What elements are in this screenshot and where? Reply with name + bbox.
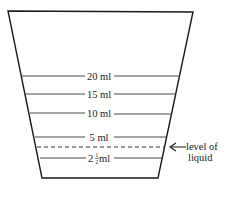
- graduation-10ml: 10 ml: [30, 108, 172, 119]
- graduation-label: 5 ml: [90, 132, 109, 143]
- graduation-20ml: 20 ml: [22, 71, 180, 82]
- measuring-cup-diagram: 20 ml 15 ml 10 ml 5 ml 2 1 2 ml level of…: [0, 0, 231, 203]
- liquid-level-annotation: level of liquid: [170, 141, 218, 163]
- graduation-label: 20 ml: [87, 71, 111, 82]
- graduation-2-5ml: 2 1 2 ml: [40, 152, 162, 165]
- annotation-line1: level of: [186, 141, 218, 152]
- graduation-5ml: 5 ml: [35, 132, 167, 143]
- graduation-label-whole: 2: [88, 153, 93, 164]
- graduation-15ml: 15 ml: [26, 89, 176, 100]
- graduation-label: 15 ml: [87, 89, 111, 100]
- graduation-label: 10 ml: [87, 108, 111, 119]
- annotation-line2: liquid: [188, 152, 213, 163]
- graduation-label-unit: ml: [99, 153, 110, 164]
